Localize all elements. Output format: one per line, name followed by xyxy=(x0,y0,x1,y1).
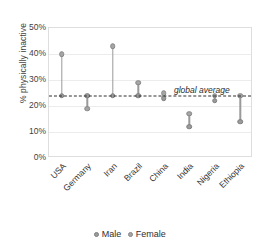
y-tick-label: 40% xyxy=(16,48,46,58)
data-point-female[interactable] xyxy=(186,111,192,117)
y-tick-label: 50% xyxy=(16,22,46,32)
legend-marker-female-icon xyxy=(128,232,133,237)
data-point-male[interactable] xyxy=(186,124,192,130)
legend-label-male: Male xyxy=(102,229,122,239)
data-group-ethiopia xyxy=(240,28,241,156)
legend-item-female[interactable]: Female xyxy=(128,229,166,239)
connector-line xyxy=(240,96,241,122)
connector-line xyxy=(61,54,62,96)
data-point-female[interactable] xyxy=(110,43,116,49)
plot-area: global average xyxy=(48,27,252,157)
global-average-line xyxy=(49,95,251,96)
data-group-germany xyxy=(87,28,88,156)
y-tick-label: 20% xyxy=(16,100,46,110)
gridline xyxy=(49,132,251,133)
legend-marker-male-icon xyxy=(94,232,99,237)
gridline xyxy=(49,54,251,55)
data-point-male[interactable] xyxy=(212,98,218,104)
data-point-female[interactable] xyxy=(135,80,141,86)
y-tick-label: 10% xyxy=(16,126,46,136)
data-point-male[interactable] xyxy=(161,95,167,101)
legend-label-female: Female xyxy=(136,229,166,239)
global-average-label: global average xyxy=(174,85,230,95)
data-group-china xyxy=(164,28,165,156)
y-axis-title: % physically inactive xyxy=(18,0,28,133)
y-tick-label: 30% xyxy=(16,74,46,84)
data-group-iran xyxy=(113,28,114,156)
legend-item-male[interactable]: Male xyxy=(94,229,121,239)
data-group-brazil xyxy=(138,28,139,156)
data-group-usa xyxy=(62,28,63,156)
data-point-male[interactable] xyxy=(237,119,243,125)
chart-container: % physically inactive global average 0%1… xyxy=(0,0,260,249)
data-point-female[interactable] xyxy=(59,51,65,57)
gridline xyxy=(49,106,251,107)
gridline xyxy=(49,80,251,81)
y-tick-label: 0% xyxy=(16,152,46,162)
connector-line xyxy=(112,46,113,95)
chart-legend: Male Female xyxy=(0,229,260,239)
data-point-female[interactable] xyxy=(84,106,90,112)
